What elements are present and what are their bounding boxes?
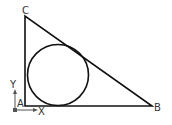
ucs-x-label: X [38, 106, 45, 117]
vertex-label-c: C [22, 5, 29, 16]
ucs-icon: Y A X [9, 79, 45, 117]
triangle-abc [25, 16, 152, 106]
vertex-label-b: B [154, 102, 161, 113]
drawing-canvas: C B Y A X [0, 0, 172, 125]
vertex-label-a: A [17, 98, 24, 109]
inscribed-circle [28, 45, 89, 106]
ucs-y-label: Y [9, 79, 17, 90]
